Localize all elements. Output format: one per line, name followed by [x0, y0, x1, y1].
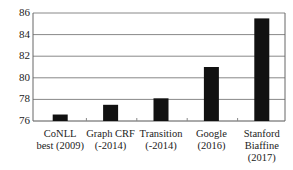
- y-tick-label: 82: [6, 50, 30, 61]
- x-category-label: Stanford Biaffine (2017): [232, 128, 292, 164]
- y-tick-label: 86: [6, 7, 30, 18]
- bar-chart: 767880828486CoNLL best (2009)Graph CRF (…: [0, 0, 293, 170]
- y-tick-label: 80: [6, 72, 30, 83]
- bar: [204, 67, 219, 121]
- y-tick-label: 84: [6, 29, 30, 40]
- bar: [154, 98, 169, 121]
- bar: [53, 115, 68, 121]
- bar: [254, 18, 269, 121]
- y-tick-label: 76: [6, 115, 30, 126]
- bar: [103, 105, 118, 121]
- y-tick-label: 78: [6, 93, 30, 104]
